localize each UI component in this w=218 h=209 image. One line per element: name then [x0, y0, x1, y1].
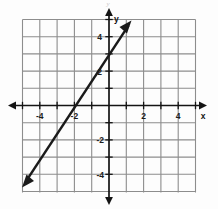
x-axis-label: x — [201, 111, 206, 121]
graph-canvas: -4 -2 2 4 4 2 -2 -4 y x y — [0, 0, 218, 209]
y-tick-label: 2 — [97, 67, 102, 77]
y-tick-label: -2 — [96, 135, 104, 145]
y-tick-label: 4 — [97, 32, 102, 42]
coordinate-graph-figure: -4 -2 2 4 4 2 -2 -4 y x y — [0, 0, 218, 209]
x-tick-label: 4 — [176, 111, 181, 121]
x-tick-label: -2 — [71, 111, 79, 121]
y-tick-label: -4 — [96, 170, 104, 180]
y-axis-label: y — [114, 14, 119, 24]
x-tick-label: -4 — [36, 111, 44, 121]
x-tick-label: 2 — [141, 111, 146, 121]
